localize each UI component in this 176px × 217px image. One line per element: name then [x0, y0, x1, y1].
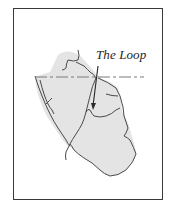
the-loop-label: The Loop	[96, 47, 146, 63]
river-southwest	[66, 144, 71, 160]
map-illustration	[0, 0, 176, 217]
